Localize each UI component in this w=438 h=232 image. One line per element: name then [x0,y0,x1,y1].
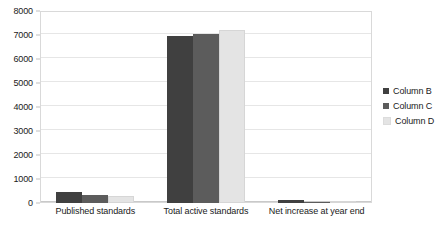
y-tick-label-2000: 2000 [13,150,33,160]
bar [304,202,330,203]
y-tick-label-6000: 6000 [13,54,33,64]
legend-label: Column B [393,86,432,96]
bar [219,30,245,203]
y-tick-label-3000: 3000 [13,126,33,136]
legend-item: Column D [383,114,438,127]
bar [193,34,219,203]
category-label: Published standards [56,206,136,216]
y-axis: 010002000300040005000600070008000 [0,0,40,232]
legend-label: Column C [393,101,432,111]
y-tick-label-4000: 4000 [13,102,33,112]
category-label: Total active standards [164,206,249,216]
legend: Column BColumn CColumn D [383,84,438,129]
legend-swatch-icon [383,103,389,109]
y-tick-label-1000: 1000 [13,174,33,184]
bar-group [278,11,356,203]
bar-group [167,11,245,203]
bar [56,192,82,203]
legend-label: Column D [395,116,434,126]
legend-item: Column C [383,99,438,112]
bar [278,200,304,203]
bar-group [56,11,134,203]
y-tick-label-0: 0 [28,198,33,208]
y-tick-label-5000: 5000 [13,78,33,88]
legend-swatch-icon [383,117,391,125]
y-tick-label-8000: 8000 [13,6,33,16]
bar [330,201,356,203]
bars-layer [40,11,372,203]
bar-chart: 010002000300040005000600070008000 Publis… [0,0,438,232]
bar [167,36,193,203]
category-axis: Published standardsTotal active standard… [40,206,372,226]
bar [82,195,108,203]
legend-swatch-icon [383,88,389,94]
category-label: Net increase at year end [269,206,365,216]
legend-item: Column B [383,84,438,97]
y-tick-label-7000: 7000 [13,30,33,40]
bar [108,196,134,203]
